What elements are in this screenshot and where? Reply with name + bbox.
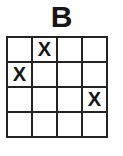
grid-cell (32, 112, 57, 137)
grid-cell: X (7, 62, 32, 87)
grid-body: X X X (7, 37, 107, 137)
grid-row (7, 112, 107, 137)
grid-row: X (7, 37, 107, 62)
grid-cell (57, 62, 82, 87)
grid-cell (7, 87, 32, 112)
grid-cell (7, 112, 32, 137)
grid-cell (32, 87, 57, 112)
grid-cell (82, 112, 107, 137)
grid-row: X (7, 62, 107, 87)
grid: X X X (6, 36, 108, 138)
grid-cell (82, 62, 107, 87)
grid-cell: X (82, 87, 107, 112)
figure-title: B (0, 0, 123, 34)
grid-cell (7, 37, 32, 62)
grid-cell (82, 37, 107, 62)
grid-cell (57, 112, 82, 137)
grid-row: X (7, 87, 107, 112)
grid-figure: B X X X (0, 0, 123, 156)
grid-cell (57, 87, 82, 112)
grid-cell (57, 37, 82, 62)
grid-cell (32, 62, 57, 87)
grid-cell: X (32, 37, 57, 62)
